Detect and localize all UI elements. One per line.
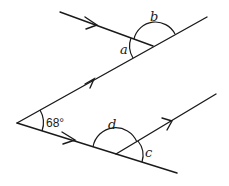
short-line [116, 94, 216, 154]
angle-b-label: b [150, 9, 158, 24]
lower-line [17, 123, 177, 173]
angle-b-arc [134, 22, 175, 39]
angle-a-arc [130, 38, 133, 58]
geometry-diagram: 68° a b d c [0, 0, 229, 186]
angle-c-label: c [145, 145, 153, 160]
angle-68-arc [40, 110, 43, 131]
angle-68-label: 68° [46, 116, 64, 130]
angle-a-label: a [120, 42, 128, 57]
angle-c-arc [138, 141, 143, 162]
angle-d-label: d [108, 117, 116, 132]
parallel-arrow-middle [85, 79, 94, 88]
middle-line [17, 17, 207, 123]
